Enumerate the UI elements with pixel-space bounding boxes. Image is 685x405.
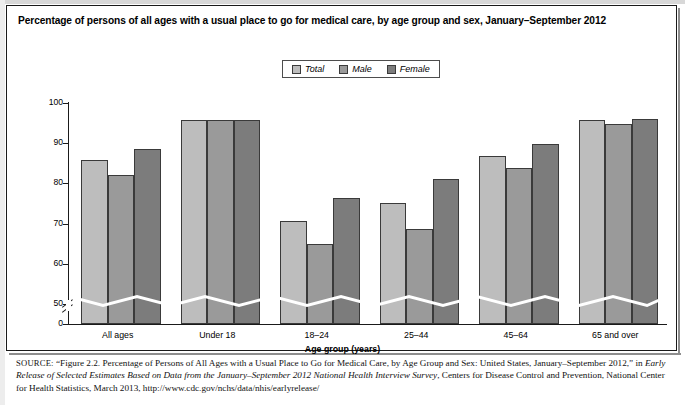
- x-tick-label: Under 18: [168, 330, 268, 340]
- x-axis-title: Age group (years): [0, 344, 685, 354]
- frame-shadow-right: [678, 8, 680, 355]
- y-tick-label-wrap-70: 70: [30, 219, 63, 228]
- y-tick-label-wrap-100: 100: [30, 98, 63, 107]
- bar-female[interactable]: [532, 144, 559, 324]
- legend-item-female[interactable]: Female: [387, 64, 430, 74]
- legend-item-total[interactable]: Total: [292, 64, 324, 74]
- y-tick-label-80: 80: [35, 178, 63, 187]
- legend-swatch-total: [292, 65, 301, 74]
- bar-group: [380, 103, 460, 324]
- bar-group: [280, 103, 360, 324]
- legend-label-male: Male: [352, 64, 372, 74]
- bar-female[interactable]: [632, 119, 659, 324]
- bar-group: [479, 103, 559, 324]
- bar-group: [81, 103, 161, 324]
- chart-title: Percentage of persons of all ages with a…: [18, 14, 658, 27]
- bar-total[interactable]: [479, 156, 506, 324]
- x-axis-line: [68, 324, 667, 325]
- plot-area: [68, 103, 665, 324]
- page-edge-top: [0, 0, 685, 4]
- x-tick-label: 18–24: [267, 330, 367, 340]
- legend-swatch-female: [387, 65, 396, 74]
- y-tick-label-wrap-90: 90: [30, 138, 63, 147]
- y-tick-label-90: 90: [35, 138, 63, 147]
- bar-male[interactable]: [108, 175, 135, 324]
- x-tick-label: 25–44: [367, 330, 467, 340]
- y-tick-label-60: 60: [35, 259, 63, 268]
- source-text-1: “Figure 2.2. Percentage of Persons of Al…: [56, 358, 645, 368]
- chart-legend: Total Male Female: [282, 60, 440, 78]
- y-tick-label-wrap-60: 60: [30, 259, 63, 268]
- source-note: SOURCE: “Figure 2.2. Percentage of Perso…: [16, 357, 671, 394]
- y-tick-label-70: 70: [35, 219, 63, 228]
- y-tick-label-wrap-80: 80: [30, 178, 63, 187]
- bar-male[interactable]: [307, 244, 334, 324]
- y-tick-label-0: 0: [35, 319, 63, 328]
- y-tick-0: [63, 324, 68, 325]
- bar-female[interactable]: [234, 120, 261, 324]
- chart-screenshot: Percentage of persons of all ages with a…: [0, 0, 685, 405]
- source-prefix: SOURCE:: [16, 358, 54, 368]
- x-tick-label: 65 and over: [566, 330, 666, 340]
- x-tick-label: All ages: [68, 330, 168, 340]
- y-tick-label-wrap-0: 0: [30, 319, 63, 328]
- bar-total[interactable]: [181, 120, 208, 324]
- bar-total[interactable]: [579, 120, 606, 324]
- bar-group: [181, 103, 261, 324]
- bar-male[interactable]: [605, 124, 632, 324]
- bar-male[interactable]: [406, 229, 433, 324]
- x-tick-label: 45–64: [466, 330, 566, 340]
- bar-total[interactable]: [280, 221, 307, 324]
- bar-female[interactable]: [134, 149, 161, 324]
- bar-female[interactable]: [433, 179, 460, 324]
- y-tick-label-100: 100: [35, 98, 63, 107]
- bar-total[interactable]: [380, 203, 407, 324]
- bar-male[interactable]: [207, 120, 234, 324]
- bar-group: [579, 103, 659, 324]
- y-tick-label-wrap-50: 50: [30, 299, 63, 308]
- bar-total[interactable]: [81, 160, 108, 324]
- legend-item-male[interactable]: Male: [339, 64, 372, 74]
- legend-label-total: Total: [305, 64, 324, 74]
- bar-female[interactable]: [333, 198, 360, 324]
- legend-label-female: Female: [400, 64, 430, 74]
- bar-male[interactable]: [506, 168, 533, 324]
- legend-swatch-male: [339, 65, 348, 74]
- y-tick-label-50: 50: [35, 299, 63, 308]
